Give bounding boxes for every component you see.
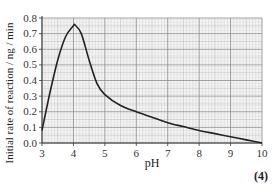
svg-text:9: 9	[228, 147, 234, 159]
svg-text:0.5: 0.5	[23, 58, 37, 70]
svg-text:0.0: 0.0	[23, 137, 37, 149]
svg-text:0.1: 0.1	[23, 121, 37, 133]
svg-text:8: 8	[196, 147, 202, 159]
y-tick-labels: 0.00.10.20.30.40.50.60.70.8	[23, 12, 42, 149]
svg-text:0.7: 0.7	[23, 27, 37, 39]
svg-text:0.6: 0.6	[23, 43, 37, 55]
x-axis-label: pH	[145, 156, 160, 171]
svg-text:3: 3	[39, 147, 45, 159]
svg-text:5: 5	[102, 147, 108, 159]
y-axis-label: Initial rate of reaction / ng / min	[3, 23, 15, 164]
marks-label: (4)	[254, 169, 268, 184]
svg-text:4: 4	[71, 147, 77, 159]
svg-text:6: 6	[134, 147, 140, 159]
svg-text:0.3: 0.3	[23, 90, 37, 102]
svg-text:0.8: 0.8	[23, 12, 37, 24]
line-chart: 0.00.10.20.30.40.50.60.70.8 345678910	[0, 0, 274, 186]
svg-text:0.4: 0.4	[23, 74, 37, 86]
svg-text:10: 10	[257, 147, 269, 159]
svg-text:0.2: 0.2	[23, 105, 37, 117]
svg-text:7: 7	[165, 147, 171, 159]
